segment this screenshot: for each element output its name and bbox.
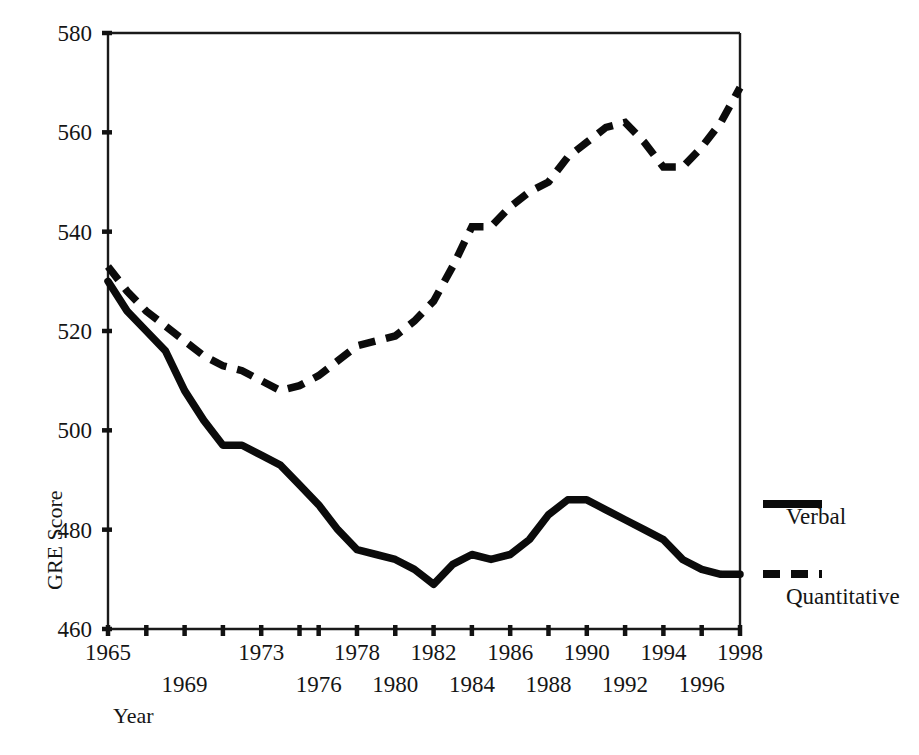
x-tick-label: 1980: [372, 672, 418, 697]
x-tick-label: 1990: [564, 640, 610, 665]
y-tick-label: 540: [58, 220, 93, 245]
chart-canvas: 460480500520540560580 196519731978198219…: [0, 0, 919, 755]
x-tick-label: 1965: [85, 640, 131, 665]
x-tick-label: 1998: [717, 640, 763, 665]
x-tick-label: 1976: [296, 672, 342, 697]
x-tick-label: 1982: [411, 640, 457, 665]
x-tick-label: 1969: [162, 672, 208, 697]
x-tick-label: 1996: [679, 672, 725, 697]
series-line-verbal: [108, 281, 740, 584]
y-tick-label: 560: [58, 120, 93, 145]
x-tick-label: 1988: [525, 672, 571, 697]
y-tick-label: 580: [58, 21, 93, 46]
chart-legend: Verbal Quantitative: [763, 504, 900, 609]
x-axis-tick-marks: [108, 625, 740, 636]
y-tick-label: 520: [58, 319, 93, 344]
x-tick-label: 1978: [334, 640, 380, 665]
x-axis-title: Year: [113, 703, 154, 728]
x-axis-tick-labels-row1: 19651973197819821986199019941998: [85, 640, 763, 665]
series-line-quantitative: [108, 88, 740, 391]
y-axis-title: GRE Score: [42, 490, 67, 590]
x-tick-label: 1973: [238, 640, 284, 665]
gre-score-line-chart: 460480500520540560580 196519731978198219…: [0, 0, 919, 755]
x-tick-label: 1984: [449, 672, 496, 697]
x-tick-label: 1986: [487, 640, 533, 665]
y-tick-label: 500: [58, 418, 93, 443]
x-axis-tick-labels-row2: 1969197619801984198819921996: [162, 672, 725, 697]
x-tick-label: 1994: [640, 640, 687, 665]
y-tick-label: 460: [58, 617, 93, 642]
axis-frame: [108, 33, 740, 629]
legend-label-quantitative: Quantitative: [786, 584, 900, 609]
x-tick-label: 1992: [602, 672, 648, 697]
legend-label-verbal: Verbal: [786, 504, 846, 529]
